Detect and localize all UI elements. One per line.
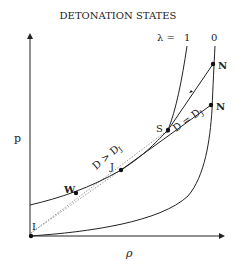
svg-text:D = DJ: D = DJ (171, 105, 206, 135)
diagram-title: DETONATION STATES (60, 10, 177, 21)
detonation-diagram: DETONATION STATES p ρ λ = 1 0 N N S J W … (0, 0, 236, 267)
label-W: W (63, 184, 76, 195)
svg-text:D > DJ: D > DJ (90, 141, 124, 173)
overdriven-label: D > DJ (90, 141, 124, 173)
point-J (119, 168, 123, 172)
hugoniot-lambda-1 (30, 46, 187, 205)
point-S (166, 128, 170, 132)
point-N-top (211, 62, 215, 66)
point-I (29, 234, 33, 238)
lambda-1-label: 1 (184, 32, 190, 43)
label-N-top: N (218, 60, 227, 71)
label-J: J (109, 161, 114, 172)
overdriven-line-arrow-icon (189, 90, 193, 93)
point-N-mid (209, 103, 213, 107)
cj-label: D = DJ (171, 105, 206, 135)
lambda-label: λ = (157, 32, 175, 43)
label-S: S (156, 123, 163, 134)
label-N-mid: N (216, 101, 225, 112)
lambda-0-label: 0 (211, 32, 217, 43)
label-I: I (32, 221, 36, 232)
y-axis-label: p (14, 132, 21, 145)
x-axis-label: ρ (125, 247, 133, 260)
hugoniot-lambda-0 (30, 46, 215, 236)
